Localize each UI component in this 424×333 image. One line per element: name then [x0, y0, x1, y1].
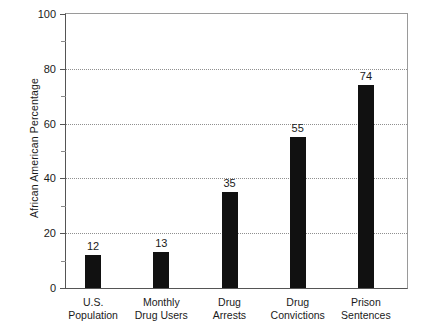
y-tick-label: 20: [44, 225, 56, 241]
tick-mark: [61, 206, 66, 207]
bar-value-label: 12: [87, 240, 99, 253]
tick-mark: [61, 41, 66, 42]
x-axis-label-line: Prison: [316, 296, 416, 309]
tick-mark: [60, 233, 66, 234]
bar-value-label: 13: [155, 237, 167, 250]
bar-value-label: 74: [360, 70, 372, 83]
y-tick-label: 80: [44, 61, 56, 77]
tick-mark: [60, 69, 66, 70]
bar: 13: [153, 252, 169, 288]
bar-value-label: 35: [223, 177, 235, 190]
tick-mark: [60, 124, 66, 125]
tick-mark: [61, 151, 66, 152]
x-axis-label: PrisonSentences: [316, 296, 416, 322]
gridline-80: [66, 69, 407, 70]
tick-mark: [60, 14, 66, 15]
gridline-60: [66, 124, 407, 125]
tick-mark: [60, 288, 66, 289]
y-tick-label: 40: [44, 170, 56, 186]
plot-area: 0204060801001213355574: [65, 13, 408, 289]
bar: 35: [222, 192, 238, 288]
bar-value-label: 55: [292, 122, 304, 135]
y-tick-label: 0: [50, 280, 56, 296]
tick-mark: [61, 96, 66, 97]
y-tick-label: 100: [38, 6, 56, 22]
y-tick-label: 60: [44, 116, 56, 132]
gridline-40: [66, 178, 407, 179]
bar-chart: African American Percentage 020406080100…: [0, 0, 424, 333]
tick-mark: [61, 261, 66, 262]
tick-mark: [60, 178, 66, 179]
x-axis-label-line: Sentences: [316, 309, 416, 322]
y-axis-title: African American Percentage: [26, 3, 42, 293]
bar: 74: [358, 85, 374, 288]
bar: 12: [85, 255, 101, 288]
bar: 55: [290, 137, 306, 288]
